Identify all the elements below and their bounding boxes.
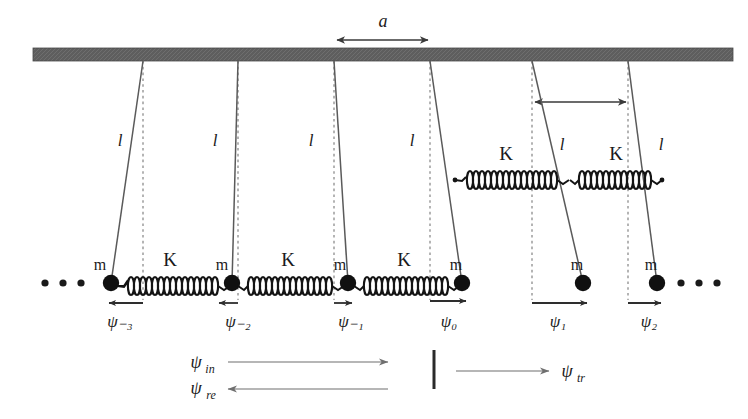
spring-4: K [453,143,569,189]
rod-length-labels: l l l l l l [118,131,664,154]
transmitted-wave-entry: ψ tr [456,361,585,385]
wave-legend: ψ in ψ re ψ tr [190,350,585,402]
mass-labels: m m m m m m [94,256,658,273]
coupling-springs-upper: K K [453,143,665,189]
spring-2: K [238,249,344,295]
pendulum-rods [111,61,657,283]
rod-length-label-psi-1: l [560,135,565,154]
rod-length-label-psi-minus-2: l [213,131,218,150]
spring-label-1: K [163,249,177,270]
reflected-wave-symbol: ψ [190,378,202,398]
mass-psi-1 [575,275,591,291]
spring-1: K [117,249,230,295]
rod-psi-0 [430,61,462,283]
reflected-wave-subscript: re [206,388,216,402]
rod-psi-minus-1 [334,61,348,283]
mass-label-psi-0: m [450,256,463,273]
ceiling-support [33,48,733,61]
rod-length-label-psi-2: l [659,135,664,154]
displacement-label-psi-minus-3: ψ₋₃ [107,312,133,331]
mass-label-psi-minus-2: m [216,256,229,273]
spring-5: K [570,143,664,189]
lattice-spacing-label: a [379,11,388,31]
spring-label-3: K [397,249,411,270]
lattice-spacing-dimension: a [337,11,428,40]
coupling-springs-lower: K K [117,249,459,295]
incident-wave-subscript: in [205,362,214,376]
mass-psi-0 [454,275,470,291]
rod-psi-minus-3 [111,61,143,283]
displacement-label-psi-0: ψ₀ [441,312,458,331]
spring-3: K [354,249,459,295]
mass-psi-minus-1 [340,275,356,291]
rod-length-label-psi-minus-3: l [118,131,123,150]
spring-label-2: K [281,249,295,270]
pendulum-lattice-figure: a l l l l l [0,0,748,419]
displacement-indicators: ψ₋₃ ψ₋₂ ψ₋₁ ψ₀ ψ₁ ψ₂ [107,301,661,331]
transmitted-wave-symbol: ψ [561,361,573,381]
ellipsis-left [41,279,84,286]
displacement-label-psi-1: ψ₁ [550,312,566,331]
mass-label-psi-2: m [645,256,658,273]
spring-label-5: K [609,143,623,164]
rod-length-label-psi-0: l [410,131,415,150]
spring-label-4: K [499,143,513,164]
rod-length-label-psi-minus-1: l [309,131,314,150]
reflected-wave-entry: ψ re [190,378,388,402]
ellipsis-right [677,279,720,286]
mass-label-psi-1: m [571,256,584,273]
mass-label-psi-minus-1: m [334,256,347,273]
displacement-label-psi-2: ψ₂ [641,312,658,331]
displacement-label-psi-minus-1: ψ₋₁ [338,312,363,331]
mass-psi-minus-3 [103,275,119,291]
rod-psi-minus-2 [232,61,238,283]
transmitted-wave-subscript: tr [577,371,585,385]
incident-wave-symbol: ψ [190,352,202,372]
incident-wave-entry: ψ in [190,352,388,376]
mass-label-psi-minus-3: m [94,256,107,273]
mass-psi-minus-2 [224,275,240,291]
figure-canvas: a l l l l l [0,0,748,419]
mass-psi-2 [649,275,665,291]
displacement-label-psi-minus-2: ψ₋₂ [225,312,251,331]
